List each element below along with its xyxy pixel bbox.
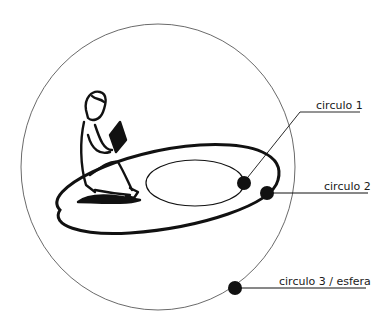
circle-1-ellipse [146,160,244,206]
spheres-diagram: circulo 1 circulo 2 circulo 3 / esfera [0,0,392,332]
leader-lines [234,112,368,288]
marker-circle-2 [260,186,274,200]
label-circle-1: circulo 1 [316,99,363,112]
child-reading-icon [78,92,140,203]
label-circle-3: circulo 3 / esfera [279,275,371,288]
marker-circle-3 [228,281,242,295]
marker-circle-1 [237,176,251,190]
label-circle-2: circulo 2 [324,180,371,193]
sphere-circle-3 [21,24,295,310]
